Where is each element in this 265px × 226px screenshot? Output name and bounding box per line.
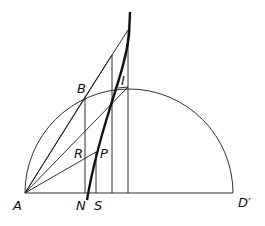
label-A: A — [13, 199, 22, 212]
label-D-prime: D′ — [238, 196, 251, 209]
label-S: S — [94, 199, 102, 212]
label-R: R — [74, 147, 83, 160]
label-B: B — [77, 82, 86, 95]
line-A-middle-top — [25, 55, 112, 193]
construction-drawing — [0, 0, 265, 226]
label-I: I — [121, 74, 125, 87]
label-P: P — [100, 147, 108, 160]
curve-quadratrix — [87, 12, 130, 200]
label-N: N — [76, 199, 86, 212]
diagram: A B I R P N S D′ — [0, 0, 265, 226]
semicircle — [25, 89, 233, 193]
